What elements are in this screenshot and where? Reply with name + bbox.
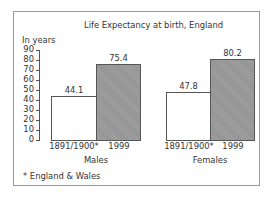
bar-females-1999 (210, 59, 255, 141)
y-tick-label: 30 (14, 105, 34, 114)
value-label-males-1999: 75.4 (96, 53, 141, 63)
group-label-females: Females (185, 155, 235, 165)
bar-females-1891-1900 (166, 92, 211, 141)
y-tick-mark (36, 140, 39, 141)
value-label-females-1891-1900: 47.8 (166, 81, 211, 91)
category-label-males-1999: 1999 (104, 141, 134, 151)
y-tick-mark (36, 100, 39, 101)
value-label-females-1999: 80.2 (210, 48, 255, 58)
y-tick-label: 10 (14, 125, 34, 134)
y-tick-mark (36, 110, 39, 111)
chart-title: Life Expectancy at birth, England (84, 20, 223, 30)
y-tick-label: 60 (14, 75, 34, 84)
y-tick-label: 80 (14, 55, 34, 64)
y-tick-label: 20 (14, 115, 34, 124)
category-label-females-1891-1900: 1891/1900* (163, 141, 215, 151)
bar-males-1891-1900 (51, 96, 97, 141)
y-tick-label: 70 (14, 65, 34, 74)
value-label-males-1891-1900: 44.1 (51, 85, 97, 95)
category-label-females-1999: 1999 (218, 141, 248, 151)
y-tick-mark (36, 60, 39, 61)
y-tick-mark (36, 70, 39, 71)
y-tick-label: 0 (14, 135, 34, 144)
y-tick-mark (36, 130, 39, 131)
category-label-males-1891-1900: 1891/1900* (48, 141, 100, 151)
group-label-males: Males (71, 155, 121, 165)
y-tick-label: 90 (14, 45, 34, 54)
y-tick-label: 40 (14, 95, 34, 104)
y-axis-line (39, 50, 40, 141)
y-tick-mark (36, 80, 39, 81)
y-tick-mark (36, 120, 39, 121)
y-tick-mark (36, 90, 39, 91)
footnote: * England & Wales (23, 171, 100, 181)
y-tick-label: 50 (14, 85, 34, 94)
y-tick-mark (36, 50, 39, 51)
bar-males-1999 (96, 64, 141, 141)
